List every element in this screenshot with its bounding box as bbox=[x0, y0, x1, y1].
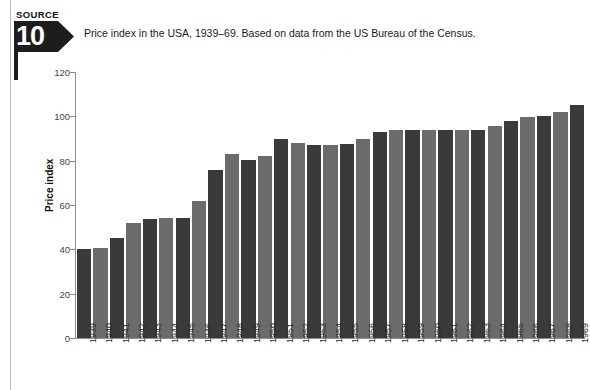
y-axis-tick-label: 100 bbox=[54, 111, 70, 122]
x-axis-tick-label: 1943 bbox=[153, 323, 163, 343]
bar-column[interactable] bbox=[373, 72, 387, 338]
bar[interactable] bbox=[520, 117, 534, 338]
bar[interactable] bbox=[488, 126, 502, 338]
bar[interactable] bbox=[553, 112, 567, 338]
bar[interactable] bbox=[570, 105, 584, 338]
x-axis-tick-label: 1959 bbox=[416, 323, 426, 343]
x-axis-tick-label: 1962 bbox=[465, 323, 475, 343]
bar[interactable] bbox=[225, 154, 239, 338]
bar[interactable] bbox=[373, 132, 387, 338]
bar-column[interactable] bbox=[356, 72, 370, 338]
bar[interactable] bbox=[291, 143, 305, 338]
x-axis-line bbox=[75, 338, 585, 339]
bar[interactable] bbox=[504, 121, 518, 338]
bar-column[interactable] bbox=[504, 72, 518, 338]
bar-column[interactable] bbox=[471, 72, 485, 338]
bar[interactable] bbox=[323, 145, 337, 338]
bar-column[interactable] bbox=[537, 72, 551, 338]
x-axis-tick-label: 1946 bbox=[203, 323, 213, 343]
x-axis-tick-label: 1954 bbox=[334, 323, 344, 343]
bar[interactable] bbox=[438, 130, 452, 338]
bar[interactable] bbox=[356, 139, 370, 339]
bar-column[interactable] bbox=[225, 72, 239, 338]
y-axis-tick-label: 60 bbox=[59, 200, 70, 211]
bar-column[interactable] bbox=[389, 72, 403, 338]
x-axis-tick-label: 1950 bbox=[268, 323, 278, 343]
bar-chart: Price index 020406080100120 193919401941… bbox=[14, 62, 586, 390]
y-axis-ticks: 020406080100120 bbox=[14, 62, 80, 352]
source-badge-number: 10 bbox=[16, 20, 62, 53]
bar-column[interactable] bbox=[274, 72, 288, 338]
bar[interactable] bbox=[176, 218, 190, 338]
x-axis-tick-label: 1944 bbox=[170, 323, 180, 343]
bar[interactable] bbox=[405, 130, 419, 338]
bar[interactable] bbox=[471, 130, 485, 338]
bar-column[interactable] bbox=[110, 72, 124, 338]
x-axis-tick-label: 1960 bbox=[433, 323, 443, 343]
bar[interactable] bbox=[126, 223, 140, 338]
source-badge: SOURCE 10 bbox=[14, 10, 76, 58]
bar[interactable] bbox=[159, 218, 173, 338]
bar-column[interactable] bbox=[405, 72, 419, 338]
x-axis-tick-label: 1956 bbox=[367, 323, 377, 343]
x-axis-tick-label: 1957 bbox=[383, 323, 393, 343]
x-axis-tick-label: 1965 bbox=[515, 323, 525, 343]
y-axis-tick-label: 20 bbox=[59, 288, 70, 299]
bar-column[interactable] bbox=[340, 72, 354, 338]
y-axis-tick-label: 40 bbox=[59, 244, 70, 255]
bar-column[interactable] bbox=[77, 72, 91, 338]
x-axis-tick-label: 1949 bbox=[252, 323, 262, 343]
bar[interactable] bbox=[307, 145, 321, 338]
source-badge-label: SOURCE bbox=[16, 10, 59, 20]
bar-column[interactable] bbox=[93, 72, 107, 338]
bar[interactable] bbox=[274, 139, 288, 339]
bar-column[interactable] bbox=[455, 72, 469, 338]
x-axis-tick-label: 1953 bbox=[318, 323, 328, 343]
x-axis-tick-label: 1939 bbox=[88, 323, 98, 343]
bar-column[interactable] bbox=[323, 72, 337, 338]
bar-column[interactable] bbox=[159, 72, 173, 338]
bar[interactable] bbox=[389, 130, 403, 338]
page-margin-rule bbox=[10, 0, 11, 390]
y-axis-tick-label: 120 bbox=[54, 67, 70, 78]
x-axis-tick-label: 1945 bbox=[186, 323, 196, 343]
bar[interactable] bbox=[537, 116, 551, 338]
x-axis-tick-label: 1955 bbox=[350, 323, 360, 343]
x-axis-tick-label: 1963 bbox=[482, 323, 492, 343]
bar-column[interactable] bbox=[520, 72, 534, 338]
bar-column[interactable] bbox=[307, 72, 321, 338]
x-axis-tick-label: 1966 bbox=[531, 323, 541, 343]
bar-column[interactable] bbox=[438, 72, 452, 338]
bar-column[interactable] bbox=[291, 72, 305, 338]
bar-column[interactable] bbox=[422, 72, 436, 338]
bar[interactable] bbox=[208, 170, 222, 338]
bar[interactable] bbox=[422, 130, 436, 338]
bar[interactable] bbox=[340, 144, 354, 338]
figure-caption: Price index in the USA, 1939–69. Based o… bbox=[84, 26, 584, 40]
x-axis-tick-label: 1940 bbox=[104, 323, 114, 343]
bar-column[interactable] bbox=[488, 72, 502, 338]
plot-area bbox=[76, 72, 585, 338]
x-axis-tick-label: 1951 bbox=[285, 323, 295, 343]
bar[interactable] bbox=[241, 160, 255, 338]
x-axis-tick-label: 1941 bbox=[121, 323, 131, 343]
bar-column[interactable] bbox=[208, 72, 222, 338]
bar-column[interactable] bbox=[143, 72, 157, 338]
bar[interactable] bbox=[192, 201, 206, 338]
x-axis-tick-label: 1948 bbox=[235, 323, 245, 343]
x-axis-tick-label: 1958 bbox=[400, 323, 410, 343]
y-axis-tick-label: 80 bbox=[59, 155, 70, 166]
bar[interactable] bbox=[143, 219, 157, 338]
bar[interactable] bbox=[258, 156, 272, 338]
bar-column[interactable] bbox=[241, 72, 255, 338]
bar-column[interactable] bbox=[553, 72, 567, 338]
bar-column[interactable] bbox=[126, 72, 140, 338]
x-axis-tick-label: 1969 bbox=[580, 323, 590, 343]
bar[interactable] bbox=[455, 130, 469, 338]
bar-column[interactable] bbox=[176, 72, 190, 338]
x-axis-tick-label: 1942 bbox=[137, 323, 147, 343]
bar-column[interactable] bbox=[258, 72, 272, 338]
bar-column[interactable] bbox=[192, 72, 206, 338]
x-axis-tick-label: 1968 bbox=[564, 323, 574, 343]
bar-column[interactable] bbox=[570, 72, 584, 338]
